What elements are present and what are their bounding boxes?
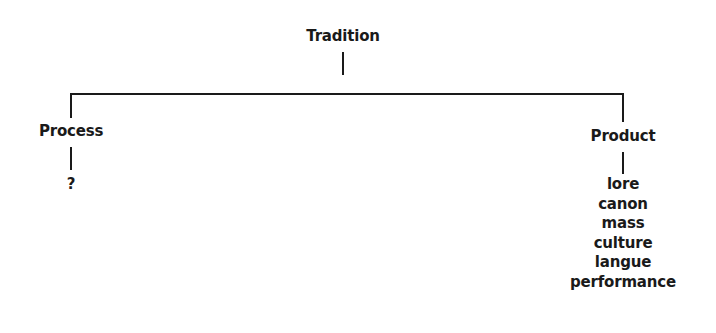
product-child-performance: performance [570, 273, 676, 293]
process-child-unknown: ? [67, 175, 76, 195]
root-node-tradition: Tradition [306, 27, 379, 45]
product-children-list: lore canon mass culture langue performan… [570, 175, 676, 292]
branch-node-product: Product [591, 127, 656, 145]
product-child-mass: mass [570, 214, 676, 234]
branch-node-process: Process [39, 122, 103, 140]
product-child-langue: langue [570, 253, 676, 273]
process-children-list: ? [67, 175, 76, 195]
product-child-lore: lore [570, 175, 676, 195]
product-child-canon: canon [570, 195, 676, 215]
product-child-culture: culture [570, 234, 676, 254]
